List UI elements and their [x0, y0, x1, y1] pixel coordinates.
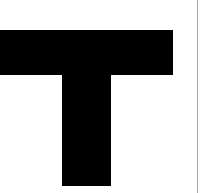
letter-t-stem: [62, 74, 111, 186]
letter-t-crossbar: [0, 30, 173, 75]
glyph-canvas: [0, 0, 212, 193]
vertical-divider-rule: [197, 0, 198, 193]
